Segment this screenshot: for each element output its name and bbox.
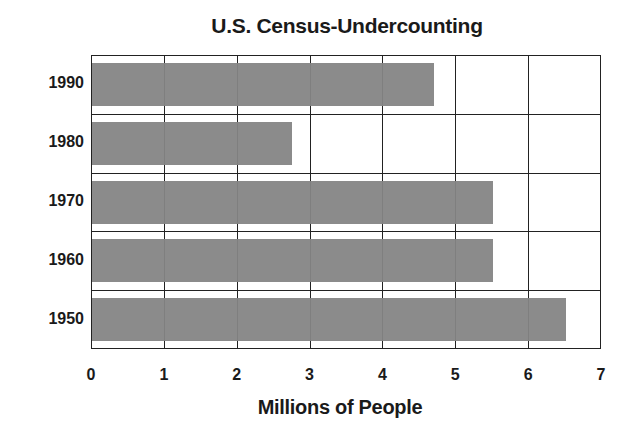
bar-1950: [92, 298, 566, 341]
y-axis-label-1960: 1960: [30, 251, 84, 269]
x-tick-6: 6: [513, 366, 543, 384]
x-axis-label: Millions of People: [0, 396, 642, 419]
y-axis-label-1970: 1970: [30, 192, 84, 210]
bar-1970: [92, 181, 493, 224]
x-tick-5: 5: [440, 366, 470, 384]
horizontal-gridline: [92, 290, 600, 291]
chart-title: U.S. Census-Undercounting: [0, 14, 642, 38]
x-tick-0: 0: [76, 366, 106, 384]
x-tick-1: 1: [149, 366, 179, 384]
x-tick-4: 4: [367, 366, 397, 384]
x-tick-3: 3: [295, 366, 325, 384]
plot-area: [91, 55, 601, 349]
x-tick-7: 7: [586, 366, 616, 384]
horizontal-gridline: [92, 173, 600, 174]
horizontal-gridline: [92, 231, 600, 232]
y-axis-label-1980: 1980: [30, 133, 84, 151]
bar-1960: [92, 239, 493, 282]
horizontal-gridline: [92, 114, 600, 115]
y-axis-label-1950: 1950: [30, 310, 84, 328]
bar-1990: [92, 63, 434, 106]
bar-1980: [92, 122, 292, 165]
x-tick-2: 2: [222, 366, 252, 384]
y-axis-label-1990: 1990: [30, 74, 84, 92]
